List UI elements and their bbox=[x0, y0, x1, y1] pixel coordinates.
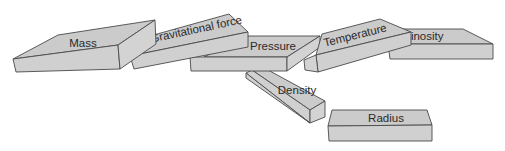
block-label-density: Density bbox=[278, 84, 317, 96]
block-density: Density bbox=[246, 70, 325, 123]
blocks-diagram: Radius Density Luminosity Pressure Tempe… bbox=[0, 0, 505, 151]
block-label-pressure: Pressure bbox=[250, 40, 296, 52]
block-label-mass: Mass bbox=[69, 37, 97, 49]
block-radius: Radius bbox=[328, 110, 432, 141]
block-temperature: Temperature bbox=[304, 19, 411, 72]
block-label-radius: Radius bbox=[368, 112, 404, 124]
